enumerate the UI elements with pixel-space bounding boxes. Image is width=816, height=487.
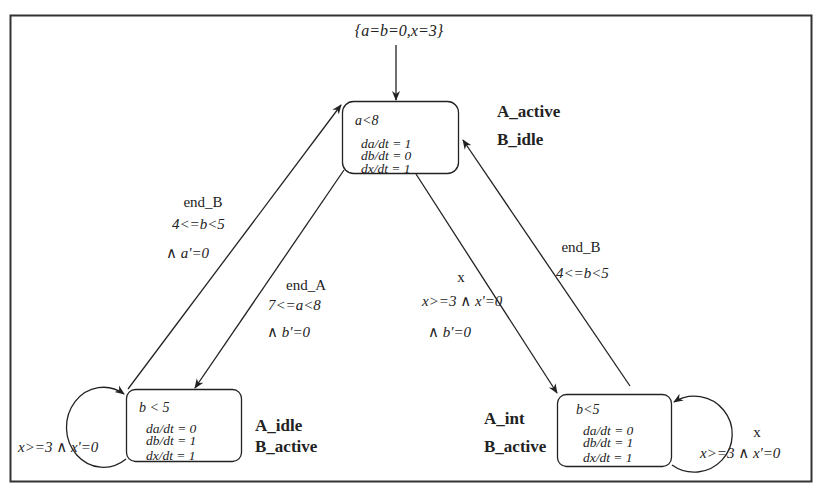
transition-reset: ∧ b'=0 (267, 324, 311, 340)
self-loop-bottom-right: x x>=3 ∧ x'=0 (672, 396, 781, 472)
flow-text: db/dt = 1 (583, 435, 633, 450)
transition-arrow (463, 140, 630, 386)
transition-arrow (416, 174, 557, 393)
state-name-line: A_idle (255, 416, 303, 435)
transition-guard: x>=3 ∧ x'=0 (699, 445, 781, 461)
initial-transition: {a=b=0,x=3} (355, 22, 444, 100)
transition-guard: x>=3 ∧ x'=0 (421, 293, 503, 309)
state-name-line: A_active (497, 102, 561, 121)
invariant-text: b < 5 (139, 400, 169, 415)
state-name-line: A_int (484, 409, 525, 428)
self-loop-bottom-left: x>=3 ∧ x'=0 (17, 387, 126, 467)
flow-text: dx/dt = 1 (146, 448, 196, 463)
transition-end-b-left: end_B 4<=b<5 ∧ a'=0 (128, 105, 341, 389)
flow-text: dx/dt = 1 (583, 450, 633, 465)
transition-reset: ∧ a'=0 (166, 245, 210, 261)
transition-event: end_B (183, 194, 222, 210)
transition-guard: 4<=b<5 (556, 265, 609, 281)
state-a-active-b-idle: a<8 da/dt = 1 db/dt = 0 dx/dt = 1 A_acti… (343, 102, 561, 177)
transition-event: x (753, 424, 761, 440)
transition-guard: 4<=b<5 (172, 216, 225, 232)
state-name-line: B_active (255, 437, 318, 456)
automaton-diagram: {a=b=0,x=3} a<8 da/dt = 1 db/dt = 0 dx/d… (0, 0, 816, 487)
transition-guard: 7<=a<8 (268, 297, 321, 313)
flow-text: dx/dt = 1 (361, 161, 411, 176)
state-name-line: B_active (484, 437, 547, 456)
self-loop-arrow (66, 387, 126, 467)
transition-end-b-right: end_B 4<=b<5 (463, 140, 630, 386)
invariant-text: a<8 (355, 113, 378, 128)
transition-event: end_A (286, 277, 326, 293)
transition-reset: ∧ b'=0 (428, 324, 472, 340)
transition-x: x x>=3 ∧ x'=0 ∧ b'=0 (416, 174, 557, 393)
state-a-int-b-active: b<5 da/dt = 0 db/dt = 1 dx/dt = 1 A_int … (484, 395, 672, 467)
transition-event: x (457, 269, 465, 285)
transition-arrow (128, 105, 341, 389)
invariant-text: b<5 (576, 402, 599, 417)
initial-condition-label: {a=b=0,x=3} (355, 22, 444, 39)
state-a-idle-b-active: b < 5 da/dt = 0 db/dt = 1 dx/dt = 1 A_id… (127, 390, 318, 464)
transition-guard: x>=3 ∧ x'=0 (17, 439, 99, 455)
transition-event: end_B (561, 239, 600, 255)
state-name-line: B_idle (497, 130, 544, 149)
flow-text: db/dt = 1 (146, 433, 196, 448)
